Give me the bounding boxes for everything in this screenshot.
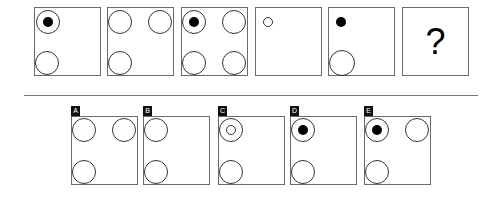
circle-ring-icon — [329, 50, 355, 76]
option-d[interactable] — [290, 116, 357, 185]
circle-ring-icon — [263, 17, 273, 27]
circle-ring-icon — [108, 51, 132, 75]
filled-dot-icon — [336, 17, 346, 27]
circle-ring-icon — [35, 51, 59, 75]
option-e-label: E — [364, 106, 373, 116]
filled-dot-icon — [372, 125, 382, 135]
filled-dot-icon — [189, 17, 199, 27]
circle-ring-icon — [182, 51, 206, 75]
question-mark-icon: ? — [403, 8, 468, 75]
divider — [24, 95, 478, 96]
circle-ring-icon — [144, 118, 168, 142]
filled-dot-icon — [43, 17, 53, 27]
option-d-label: D — [290, 106, 299, 116]
circle-ring-icon — [226, 125, 236, 135]
sequence-panel-4 — [255, 7, 322, 76]
filled-dot-icon — [298, 125, 308, 135]
sequence-panel-5 — [328, 7, 395, 76]
circle-ring-icon — [365, 160, 389, 184]
circle-ring-icon — [112, 118, 136, 142]
option-c-label: C — [218, 106, 227, 116]
option-c[interactable] — [218, 116, 285, 185]
sequence-panel-1 — [34, 7, 101, 76]
option-a[interactable] — [71, 116, 138, 185]
circle-ring-icon — [291, 160, 315, 184]
option-b-label: B — [143, 106, 152, 116]
circle-ring-icon — [108, 10, 132, 34]
option-b[interactable] — [143, 116, 210, 185]
circle-ring-icon — [219, 160, 243, 184]
circle-ring-icon — [72, 118, 96, 142]
sequence-panel-question: ? — [402, 7, 469, 76]
sequence-panel-2 — [107, 7, 174, 76]
option-a-label: A — [71, 106, 80, 116]
circle-ring-icon — [222, 10, 246, 34]
circle-ring-icon — [144, 160, 168, 184]
circle-ring-icon — [405, 118, 429, 142]
option-e[interactable] — [364, 116, 431, 185]
circle-ring-icon — [222, 51, 246, 75]
circle-ring-icon — [72, 160, 96, 184]
circle-ring-icon — [148, 10, 172, 34]
sequence-panel-3 — [181, 7, 248, 76]
